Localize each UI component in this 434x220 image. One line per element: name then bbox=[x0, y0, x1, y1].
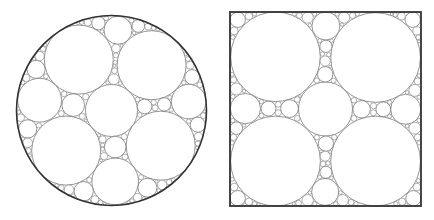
packed-circle bbox=[414, 134, 421, 141]
packed-circle bbox=[231, 35, 235, 39]
packed-circle bbox=[43, 74, 48, 79]
packed-circle bbox=[351, 115, 357, 121]
packed-circle bbox=[17, 114, 25, 122]
packed-circle bbox=[137, 113, 142, 118]
packed-circle bbox=[79, 113, 85, 119]
packed-circle bbox=[391, 94, 421, 124]
packed-circle bbox=[99, 136, 106, 143]
packed-circle bbox=[326, 161, 330, 165]
packed-circle bbox=[351, 97, 356, 102]
packed-circle bbox=[370, 110, 376, 116]
packed-circle bbox=[393, 13, 397, 17]
packed-circle bbox=[312, 178, 339, 205]
packed-circle bbox=[19, 120, 37, 138]
packed-circle bbox=[353, 101, 371, 119]
packed-circle bbox=[84, 119, 87, 122]
packed-circle bbox=[100, 30, 104, 34]
packed-circle bbox=[405, 91, 409, 95]
packed-circle bbox=[413, 27, 421, 35]
packed-circle bbox=[155, 180, 158, 183]
packed-circle bbox=[62, 94, 85, 117]
packed-circle bbox=[121, 134, 127, 140]
packed-circle bbox=[58, 111, 64, 117]
packed-circle bbox=[413, 183, 421, 191]
circle-packing-in-square bbox=[230, 12, 421, 206]
packed-circle bbox=[36, 123, 41, 128]
packed-circle bbox=[388, 100, 392, 104]
packed-circle bbox=[302, 12, 313, 23]
packed-circle bbox=[329, 151, 332, 154]
packed-circle bbox=[106, 81, 110, 85]
packed-circle bbox=[169, 108, 173, 112]
packed-circle bbox=[329, 65, 332, 68]
packed-circle bbox=[186, 119, 190, 123]
packed-circle bbox=[349, 12, 355, 18]
packed-circle bbox=[281, 100, 299, 118]
packed-circle bbox=[101, 143, 105, 147]
packed-circle bbox=[139, 175, 144, 180]
packed-circle bbox=[348, 199, 354, 205]
packed-circle bbox=[230, 191, 245, 206]
packed-circle bbox=[168, 95, 172, 99]
packed-circle bbox=[275, 102, 281, 108]
packed-circle bbox=[259, 113, 264, 118]
packed-circle bbox=[308, 191, 311, 194]
packed-circle bbox=[330, 39, 333, 42]
packed-circle bbox=[339, 12, 350, 23]
packed-circle bbox=[182, 81, 186, 85]
packed-circle bbox=[242, 89, 246, 93]
packed-circle bbox=[414, 78, 421, 85]
packed-circle bbox=[151, 100, 156, 105]
packed-circle bbox=[230, 134, 236, 140]
packed-circle bbox=[122, 154, 128, 160]
packed-circle bbox=[231, 116, 321, 206]
packed-circle bbox=[331, 13, 421, 103]
packed-circle bbox=[418, 40, 421, 43]
packed-circle bbox=[231, 12, 321, 102]
packed-circle bbox=[416, 179, 420, 183]
packed-circle bbox=[331, 116, 421, 206]
packed-circle bbox=[320, 161, 326, 167]
packed-circle bbox=[132, 31, 136, 35]
packed-circle bbox=[314, 135, 319, 140]
packed-circle bbox=[118, 82, 122, 86]
packed-circle bbox=[158, 98, 171, 111]
packed-circle bbox=[138, 178, 157, 197]
packed-circle bbox=[318, 175, 322, 179]
packed-circle bbox=[83, 94, 89, 100]
packed-circle bbox=[327, 53, 331, 57]
packed-circle bbox=[231, 94, 235, 98]
packed-circle bbox=[135, 97, 140, 102]
packed-circle bbox=[405, 12, 420, 27]
packed-circle bbox=[97, 134, 100, 137]
packed-circle bbox=[230, 27, 238, 35]
packed-circle bbox=[318, 67, 333, 82]
packed-circle bbox=[112, 68, 118, 74]
packed-circle bbox=[91, 196, 99, 204]
packed-circle bbox=[331, 78, 336, 83]
packed-circle bbox=[320, 150, 323, 153]
packed-circle bbox=[61, 91, 67, 97]
packed-circle bbox=[100, 159, 103, 162]
packed-circle bbox=[113, 53, 118, 58]
packed-circle bbox=[416, 35, 421, 40]
packed-circle bbox=[312, 12, 340, 40]
packed-circle bbox=[231, 118, 235, 122]
packed-circle bbox=[318, 136, 333, 151]
packed-circle bbox=[230, 122, 243, 135]
packed-circle bbox=[230, 183, 238, 191]
packed-circle bbox=[112, 44, 121, 53]
packed-circle bbox=[320, 56, 330, 66]
packed-circle bbox=[230, 83, 242, 95]
packed-circle bbox=[104, 16, 132, 44]
packed-circle bbox=[294, 116, 300, 122]
packed-circle bbox=[405, 124, 409, 128]
packed-circle bbox=[275, 110, 281, 116]
packed-circle bbox=[113, 60, 117, 64]
packed-circle bbox=[92, 16, 105, 29]
packed-circle bbox=[120, 44, 123, 47]
packed-circle bbox=[113, 64, 116, 67]
packed-circle bbox=[370, 103, 376, 109]
packed-circle bbox=[340, 23, 343, 26]
packed-circle bbox=[18, 78, 62, 122]
